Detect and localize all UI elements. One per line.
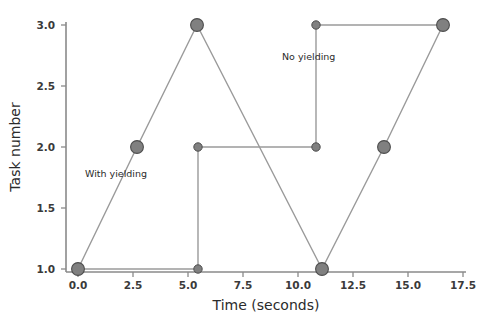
x-tick-label-1: 2.5 [124, 279, 143, 291]
data-point [194, 265, 202, 273]
y-axis-ticks: 1.0 1.5 2.0 2.5 3.0 [36, 19, 66, 275]
x-axis-ticks: 0.0 2.5 5.0 7.5 10.0 12.5 15.0 17.5 [69, 272, 476, 291]
x-tick-label-3: 7.5 [234, 279, 253, 291]
y-tick-label-0: 1.0 [36, 263, 55, 275]
annotation-no-yielding: No yielding [282, 51, 335, 62]
data-point [316, 263, 329, 276]
data-point [378, 141, 391, 154]
y-tick-label-3: 2.5 [36, 80, 55, 92]
data-point [312, 143, 320, 151]
y-tick-label-1: 1.5 [36, 202, 55, 214]
data-point [437, 19, 450, 32]
data-point [194, 143, 202, 151]
data-point [191, 19, 204, 32]
y-tick-label-4: 3.0 [36, 19, 55, 31]
chart-figure: 0.0 2.5 5.0 7.5 10.0 12.5 15.0 17.5 1.0 … [0, 0, 478, 320]
line-chart: 0.0 2.5 5.0 7.5 10.0 12.5 15.0 17.5 1.0 … [0, 0, 478, 320]
x-axis-title: Time (seconds) [212, 297, 320, 313]
x-tick-label-5: 12.5 [340, 279, 366, 291]
x-tick-label-2: 5.0 [179, 279, 198, 291]
x-tick-label-0: 0.0 [69, 279, 88, 291]
y-tick-label-2: 2.0 [36, 141, 55, 153]
x-tick-label-4: 10.0 [285, 279, 311, 291]
y-axis-title: Task number [7, 102, 23, 193]
x-tick-label-7: 17.5 [450, 279, 476, 291]
annotation-with-yielding: With yielding [85, 168, 147, 179]
data-point [72, 263, 85, 276]
x-tick-label-6: 15.0 [395, 279, 421, 291]
data-point [131, 141, 144, 154]
data-point [312, 21, 320, 29]
